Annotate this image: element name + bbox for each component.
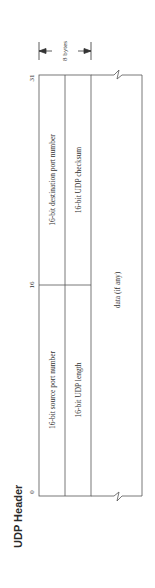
diagram-title: UDP Header <box>12 484 24 548</box>
bit-marker-0: 0 <box>28 490 36 494</box>
field-udp-length: 16-bit UDP length <box>74 362 83 417</box>
udp-header-diagram: UDP Header 0 16 31 8 bytes 16-bit sour <box>0 0 155 588</box>
bit-marker-31: 31 <box>28 74 36 82</box>
field-destination-port: 16-bit destination port number <box>48 134 57 226</box>
field-source-port: 16-bit source port number <box>48 350 57 429</box>
arrow-left-icon <box>39 49 46 54</box>
bit-marker-16: 16 <box>28 281 36 289</box>
field-udp-checksum: 16-bit UDP checksum <box>74 147 83 214</box>
arrow-right-icon <box>84 49 91 54</box>
size-annotation: 8 bytes <box>61 41 69 61</box>
data-block-label: data (if any) <box>113 271 122 308</box>
